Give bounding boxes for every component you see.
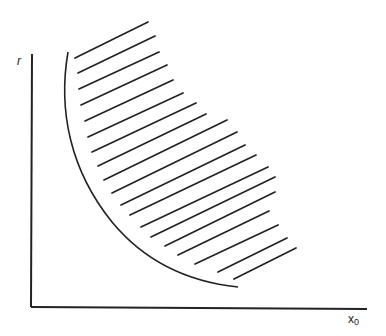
hatch-line bbox=[75, 22, 148, 58]
hatch-line bbox=[151, 177, 275, 237]
diagram-canvas bbox=[0, 0, 386, 336]
hatch-line bbox=[78, 36, 155, 73]
hatch-line bbox=[218, 238, 287, 272]
hatch-line bbox=[81, 65, 167, 105]
hatch-line bbox=[98, 114, 206, 166]
boundary-curve bbox=[65, 52, 238, 287]
hatch-line bbox=[234, 248, 296, 279]
x-axis-label: x0 bbox=[348, 313, 359, 327]
hatch-line bbox=[104, 120, 227, 180]
x-axis-label-subscript: 0 bbox=[354, 317, 359, 327]
hatch-line bbox=[79, 52, 159, 89]
hatch-line bbox=[85, 80, 173, 121]
hatch-line bbox=[112, 132, 237, 193]
hatch-line bbox=[141, 167, 268, 227]
y-axis-label: r bbox=[17, 55, 21, 67]
hatch-line bbox=[165, 192, 275, 246]
y-axis bbox=[31, 54, 32, 307]
hatch-lines bbox=[75, 22, 296, 279]
hatch-line bbox=[130, 155, 256, 215]
x-axis bbox=[31, 307, 367, 309]
hatch-line bbox=[121, 145, 245, 205]
hatch-line bbox=[195, 225, 278, 264]
